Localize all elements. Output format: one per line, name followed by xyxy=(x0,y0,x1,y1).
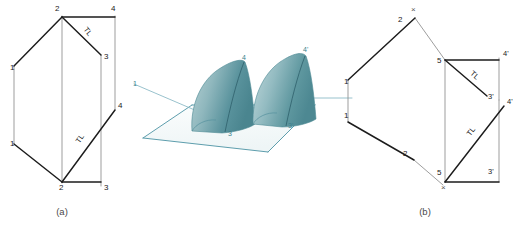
pictorial-shell-left xyxy=(192,60,255,133)
vertex-label-a-3-bottom: 3 xyxy=(104,183,109,192)
vertex-label-b-5-lower: 5 xyxy=(437,168,442,177)
vertex-label-a-4-top: 4 xyxy=(111,4,116,13)
pictorial-label-3: 3 xyxy=(228,130,232,137)
vertex-label-a-1-lower: 1 xyxy=(10,139,15,148)
vertex-label-b-4prime-mid: 4' xyxy=(507,97,513,106)
vertex-label-b-2-lower: 2 xyxy=(403,149,408,158)
vertex-label-a-2-top: 2 xyxy=(55,4,60,13)
pictorial-shell-right xyxy=(253,54,316,127)
edge-b-apex-1-upper xyxy=(348,18,415,80)
tl-label-b-upper: TL xyxy=(468,69,481,82)
vertex-label-b-1-upper: 1 xyxy=(344,77,349,86)
edge-b-5-4prime-tl-lower xyxy=(445,106,504,182)
edge-b-5-3prime-tl-upper xyxy=(445,60,487,96)
figure-captions: (a) (b) xyxy=(56,206,431,217)
construction-line-b-fold-upper xyxy=(415,18,445,60)
vertex-label-b-2-upper: 2 xyxy=(398,15,403,24)
fold-mark-upper: × xyxy=(411,5,416,14)
edge-a-2-1-upper-left xyxy=(14,17,62,66)
edge-a-1-2-lower-left xyxy=(14,144,62,182)
edge-a-2-4-tl-lower xyxy=(62,110,115,182)
caption-a: (a) xyxy=(56,206,68,217)
vertex-label-b-3prime-upper: 3' xyxy=(488,92,494,101)
edge-a-2-3-tl-upper xyxy=(62,17,101,55)
shell-left-body xyxy=(192,60,255,133)
panel-a-geometry xyxy=(14,16,115,186)
fold-mark-lower: × xyxy=(441,183,446,192)
pictorial-label-3-prime: 3' xyxy=(288,122,293,129)
panel-b-vertex-labels: 2 5 4' 1 3' 4' 1 2 5 3' xyxy=(344,15,513,177)
panel-b-x-marks: × × xyxy=(411,5,446,192)
figure-container: TL TL 2 4 3 1 4 1 2 3 xyxy=(0,0,522,227)
vertex-label-b-5-upper: 5 xyxy=(437,56,442,65)
panel-a-vertex-labels: 2 4 3 1 4 1 2 3 xyxy=(10,4,123,192)
panel-a-tl-labels: TL TL xyxy=(74,25,94,145)
tl-label-b-lower: TL xyxy=(465,125,477,137)
vertex-label-b-4prime-top: 4' xyxy=(503,49,509,58)
figure-canvas: TL TL 2 4 3 1 4 1 2 3 xyxy=(0,0,522,227)
pictorial-label-4: 4 xyxy=(242,54,246,61)
tl-label-a-lower: TL xyxy=(74,132,86,144)
vertex-label-b-1-lower: 1 xyxy=(344,111,349,120)
panel-b-geometry xyxy=(348,18,504,185)
tl-label-a-upper: TL xyxy=(82,25,94,37)
vertex-label-a-2-bottom: 2 xyxy=(59,183,64,192)
vertex-label-a-3-upper: 3 xyxy=(104,52,109,61)
pictorial-label-4-prime: 4' xyxy=(303,46,308,53)
vertex-label-a-1-upper: 1 xyxy=(10,63,15,72)
caption-b: (b) xyxy=(419,206,431,217)
vertex-label-a-4-lower: 4 xyxy=(118,101,123,110)
vertex-label-b-3prime-lower: 3' xyxy=(488,167,494,176)
pictorial-label-1: 1 xyxy=(133,80,137,87)
